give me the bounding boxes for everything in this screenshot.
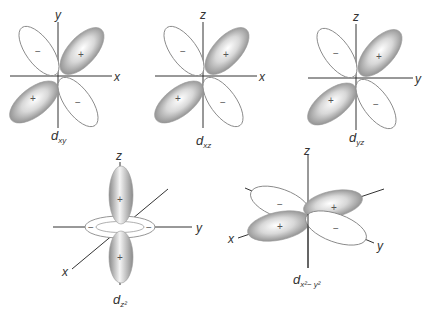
sign-lower-right: − xyxy=(75,97,81,108)
sign-front-left: + xyxy=(277,221,283,232)
sign-upper-left: − xyxy=(333,48,339,59)
sign-torus-right: − xyxy=(146,222,152,233)
axis-label-x: x xyxy=(61,265,69,279)
orbital-label-dz2: dz² xyxy=(113,292,127,309)
sign-lower-right: − xyxy=(220,97,226,108)
sign-lower-left: + xyxy=(175,93,181,104)
sign-back-left: − xyxy=(277,199,283,210)
orbital-label-dxz: dxz xyxy=(196,133,211,150)
sign-front-right: − xyxy=(333,223,339,234)
sign-lower-left: + xyxy=(30,93,36,104)
axis-label-z: z xyxy=(303,144,310,158)
axis-label-z: z xyxy=(199,8,206,22)
axis-label-z: z xyxy=(352,10,359,24)
d-orbitals-diagram: − + + − x y dxy − + + − x z dxz − + xyxy=(0,0,429,320)
axis-label-y: y xyxy=(195,221,203,235)
sign-back-right: + xyxy=(331,202,337,213)
axis-label-y: y xyxy=(54,8,62,22)
orbital-dxz: − + + − x z dxz xyxy=(148,8,266,150)
axis-label-z: z xyxy=(115,149,122,163)
axis-label-x: x xyxy=(113,70,121,84)
sign-upper-right: + xyxy=(376,51,382,62)
sign-upper-left: − xyxy=(35,46,41,57)
axis-label-y: y xyxy=(376,239,384,253)
sign-top: + xyxy=(117,194,123,205)
sign-upper-right: + xyxy=(78,49,84,60)
sign-bottom: + xyxy=(117,252,123,263)
axis-label-x: x xyxy=(258,70,266,84)
orbital-dxy: − + + − x y dxy xyxy=(3,8,121,145)
orbital-dx2y2: − + + − z x y dx²− y² xyxy=(227,144,384,289)
sign-lower-right: − xyxy=(373,99,379,110)
orbital-label-dyz: dyz xyxy=(349,130,364,147)
sign-lower-left: + xyxy=(328,95,334,106)
sign-upper-left: − xyxy=(180,46,186,57)
orbital-label-dxy: dxy xyxy=(51,128,67,145)
sign-upper-right: + xyxy=(223,49,229,60)
sign-torus-left: − xyxy=(88,222,94,233)
orbital-dyz: − + + − y z dyz xyxy=(301,10,422,147)
orbital-label-dx2y2: dx²− y² xyxy=(293,272,321,289)
orbital-dz2: + + − − z y x dz² xyxy=(53,149,203,309)
axis-label-y: y xyxy=(414,72,422,86)
axis-label-x: x xyxy=(227,232,235,246)
